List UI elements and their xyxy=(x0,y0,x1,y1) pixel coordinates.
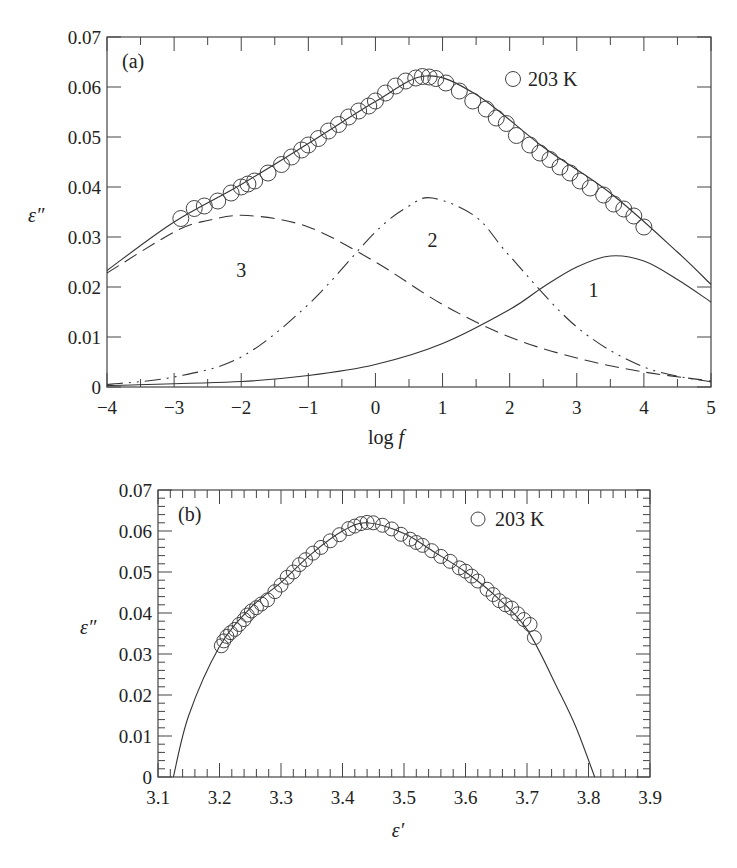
legend-circle-icon xyxy=(506,72,521,87)
chart-b-xlabel: ε′ xyxy=(392,819,405,841)
chart-a-panel-label: (a) xyxy=(122,50,144,73)
data-point xyxy=(224,626,238,640)
x-tick-label: 3.5 xyxy=(392,787,416,808)
data-point xyxy=(508,128,524,144)
x-tick-label: 3.1 xyxy=(146,787,170,808)
data-point xyxy=(240,608,254,622)
y-tick-label: 0.01 xyxy=(68,327,101,348)
chart-b-curves xyxy=(173,523,594,777)
chart-b-markers xyxy=(214,515,541,652)
x-tick-label: 3.7 xyxy=(515,787,539,808)
data-point xyxy=(596,187,612,203)
y-tick-label: 0.01 xyxy=(119,726,152,747)
figure: −4−3−2−101234500.010.020.030.040.050.060… xyxy=(0,0,737,868)
y-tick-label: 0.03 xyxy=(68,227,101,248)
x-tick-label: −4 xyxy=(97,397,118,418)
x-tick-label: −1 xyxy=(298,397,318,418)
curve-fit-sum- xyxy=(107,76,711,285)
chart-b-panel-label: (b) xyxy=(178,503,201,526)
chart-a-xlabel: log f xyxy=(368,426,407,449)
curve-1 xyxy=(107,256,711,386)
x-tick-label: −2 xyxy=(231,397,251,418)
chart-b-ylabel: ε″ xyxy=(80,616,97,638)
x-tick-label: 5 xyxy=(706,397,716,418)
y-tick-label: 0.05 xyxy=(119,562,152,583)
curve-3 xyxy=(107,215,711,381)
data-point xyxy=(511,607,525,621)
chart-a-legend-label: 203 K xyxy=(528,68,578,90)
data-point xyxy=(323,534,337,548)
x-tick-label: 1 xyxy=(438,397,448,418)
x-tick-label: 3.9 xyxy=(638,787,662,808)
x-tick-label: 3 xyxy=(572,397,582,418)
x-tick-label: 4 xyxy=(639,397,649,418)
x-tick-label: 3.4 xyxy=(331,787,355,808)
y-tick-label: 0.07 xyxy=(68,27,101,48)
xlabel-log: log xyxy=(368,426,399,449)
data-point xyxy=(562,165,578,181)
y-tick-label: 0.04 xyxy=(68,177,102,198)
data-point xyxy=(186,201,202,217)
y-tick-label: 0.06 xyxy=(119,521,152,542)
chart-a-ylabel: ε″ xyxy=(28,204,45,226)
data-point xyxy=(351,103,367,119)
chart-a-ticks xyxy=(107,37,711,387)
curve-2 xyxy=(107,198,711,385)
chart-b: 3.13.23.33.43.53.63.73.83.900.010.020.03… xyxy=(80,480,662,841)
chart-a-curve-labels: 321 xyxy=(236,229,598,301)
data-point xyxy=(341,109,357,125)
curve-label: 2 xyxy=(427,229,437,251)
x-tick-label: 3.2 xyxy=(208,787,232,808)
data-point xyxy=(522,137,538,153)
data-point xyxy=(488,110,504,126)
data-point xyxy=(332,528,346,542)
xlabel-f: f xyxy=(399,426,407,449)
data-point xyxy=(273,157,289,173)
chart-a-legend: 203 K xyxy=(506,68,579,90)
x-tick-label: −3 xyxy=(164,397,184,418)
y-tick-label: 0 xyxy=(143,767,153,788)
curve-fit xyxy=(173,523,594,777)
data-point xyxy=(478,101,494,117)
y-tick-label: 0.03 xyxy=(119,644,152,665)
curve-label: 3 xyxy=(236,259,246,281)
x-tick-label: 3.3 xyxy=(269,787,293,808)
curve-label: 1 xyxy=(589,279,599,301)
chart-a-markers xyxy=(173,69,652,236)
chart-a-curves xyxy=(107,76,711,386)
y-tick-label: 0.02 xyxy=(119,685,152,706)
data-point xyxy=(217,634,231,648)
data-point xyxy=(398,73,414,89)
chart-b-legend: 203 K xyxy=(471,508,545,530)
data-point xyxy=(523,617,537,631)
x-tick-label: 3.8 xyxy=(577,787,601,808)
y-tick-label: 0.06 xyxy=(68,77,101,98)
x-tick-label: 2 xyxy=(505,397,515,418)
x-tick-label: 0 xyxy=(371,397,381,418)
chart-b-legend-label: 203 K xyxy=(495,508,545,530)
y-tick-label: 0 xyxy=(92,377,102,398)
legend-circle-icon xyxy=(471,512,485,526)
chart-b-tick-labels: 3.13.23.33.43.53.63.73.83.900.010.020.03… xyxy=(119,480,662,808)
data-point xyxy=(552,159,568,175)
chart-a-frame xyxy=(107,37,711,387)
y-tick-label: 0.05 xyxy=(68,127,101,148)
y-tick-label: 0.07 xyxy=(119,480,152,501)
data-point xyxy=(606,196,622,212)
y-tick-label: 0.04 xyxy=(119,603,153,624)
y-tick-label: 0.02 xyxy=(68,277,101,298)
chart-a-tick-labels: −4−3−2−101234500.010.020.030.040.050.060… xyxy=(68,27,716,418)
chart-a: −4−3−2−101234500.010.020.030.040.050.060… xyxy=(28,27,716,449)
x-tick-label: 3.6 xyxy=(454,787,478,808)
